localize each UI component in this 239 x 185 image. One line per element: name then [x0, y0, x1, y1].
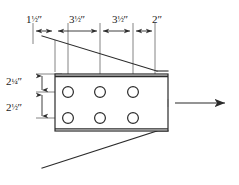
dimension-label-h1: 1½″	[26, 14, 42, 25]
bolt-hole	[95, 87, 106, 98]
dimension-label-h4: 2″	[152, 14, 162, 25]
dimension-label-h3: 3½″	[112, 14, 128, 25]
bolt-hole	[128, 113, 139, 124]
dimension-label-h2: 3½″	[69, 14, 85, 25]
bolt-hole	[95, 113, 106, 124]
dimension-label-v1: 2¼″	[6, 76, 22, 87]
dimension-label-v2: 2½″	[6, 102, 22, 113]
bolt-hole	[63, 87, 74, 98]
bolt-hole	[128, 87, 139, 98]
diagram-canvas	[0, 0, 239, 185]
bolt-hole	[63, 113, 74, 124]
engineering-diagram: 1½″ 3½″ 3½″ 2″ 2¼″ 2½″	[0, 0, 239, 185]
applied-force-arrow	[168, 99, 225, 107]
